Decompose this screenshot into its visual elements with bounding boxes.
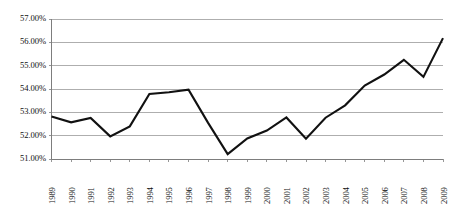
line-chart: 51.00%52.00%53.00%54.00%55.00%56.00%57.0… bbox=[0, 0, 458, 210]
x-axis-tick-label: 2004 bbox=[342, 187, 351, 204]
x-axis-tick-label: 1995 bbox=[165, 187, 174, 204]
x-axis-tick-label: 1996 bbox=[185, 187, 194, 204]
x-axis-tick-label: 2007 bbox=[400, 187, 409, 204]
x-axis-tick-label: 1997 bbox=[205, 187, 214, 204]
x-axis-tick-label: 2001 bbox=[283, 187, 292, 204]
x-axis-tick-label: 1990 bbox=[68, 187, 77, 204]
x-axis-tick-label: 1991 bbox=[87, 187, 96, 204]
x-axis-tick-label: 1993 bbox=[126, 187, 135, 204]
x-axis-tick-label: 2009 bbox=[440, 187, 449, 204]
x-axis-tick-label: 2005 bbox=[361, 187, 370, 204]
x-axis-tick-label: 2003 bbox=[322, 187, 331, 204]
x-axis-tick-label: 1989 bbox=[48, 187, 57, 204]
x-axis-tick-label: 2006 bbox=[381, 187, 390, 204]
x-axis-labels: 1989199019911992199319941995199619971998… bbox=[0, 0, 458, 210]
x-axis-tick-label: 2008 bbox=[420, 187, 429, 204]
x-axis-tick-label: 1994 bbox=[146, 187, 155, 204]
x-axis-tick-label: 2000 bbox=[263, 187, 272, 204]
x-axis-tick-label: 1992 bbox=[107, 187, 116, 204]
x-axis-tick-label: 1999 bbox=[244, 187, 253, 204]
x-axis-tick-label: 1998 bbox=[224, 187, 233, 204]
x-axis-tick-label: 2002 bbox=[302, 187, 311, 204]
